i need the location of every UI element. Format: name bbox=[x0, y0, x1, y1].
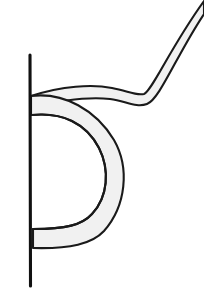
figure-canvas: Hand-drawn letter-b like glyph with shad… bbox=[0, 0, 204, 296]
vertical-stem-line bbox=[30, 55, 31, 286]
line-art-drawing bbox=[0, 0, 204, 296]
vertical-stem-group bbox=[30, 55, 31, 286]
